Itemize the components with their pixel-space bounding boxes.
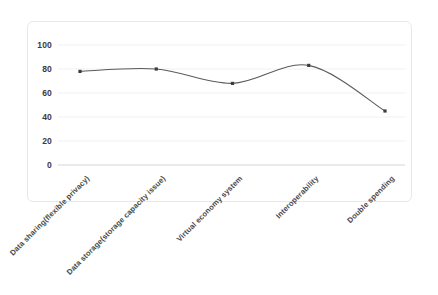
x-axis-labels: Data sharing(flexible privacy)Data stora… (0, 0, 438, 295)
x-axis-tick-label: Interoperability (274, 174, 320, 220)
x-axis-tick-label: Data sharing(flexible privacy) (8, 174, 91, 257)
x-axis-tick-label: Double spending (345, 174, 396, 225)
x-axis-tick-label: Virtual economy system (174, 174, 244, 244)
